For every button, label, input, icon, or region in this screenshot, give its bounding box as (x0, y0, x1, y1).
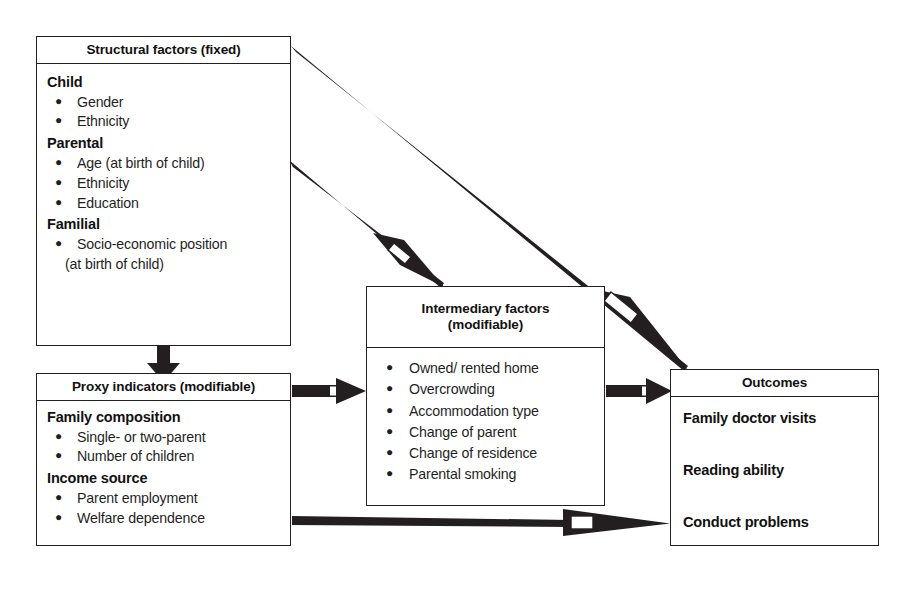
list-item: Family doctor visits (683, 410, 872, 426)
bullet-list-income-source: ●Parent employment ●Welfare dependence (47, 489, 286, 529)
bullet-icon: ● (386, 443, 393, 461)
group-heading-family-composition: Family composition (47, 408, 286, 427)
list-item: Conduct problems (683, 514, 872, 530)
bullet-icon: ● (55, 174, 62, 191)
bullet-icon: ● (55, 235, 62, 252)
list-item: ●Ethnicity (47, 174, 286, 194)
bullet-icon: ● (55, 509, 62, 526)
box-structural-factors: Structural factors (fixed) Child ●Gender… (36, 36, 291, 346)
box-intermediary-header: Intermediary factors (modifiable) (367, 287, 604, 348)
box-intermediary-body: ●Owned/ rented home ●Overcrowding ●Accom… (367, 348, 604, 492)
list-item: ●Gender (47, 93, 286, 113)
bullet-list-child: ●Gender ●Ethnicity (47, 93, 286, 133)
box-proxy-indicators: Proxy indicators (modifiable) Family com… (36, 373, 291, 546)
box-proxy-body: Family composition ●Single- or two-paren… (37, 401, 290, 535)
list-item: ●Number of children (47, 447, 286, 467)
box-outcomes: Outcomes Family doctor visits Reading ab… (670, 369, 879, 546)
list-item: ●Change of residence (374, 443, 600, 464)
arrow-structural-to-intermediary (289, 160, 444, 288)
box-intermediary-factors: Intermediary factors (modifiable) ●Owned… (366, 286, 605, 506)
bullet-icon: ● (386, 401, 393, 419)
list-item: ●Welfare dependence (47, 509, 286, 529)
box-outcomes-header: Outcomes (671, 370, 878, 397)
group-heading-child: Child (47, 73, 286, 92)
list-item: ●Single- or two-parent (47, 428, 286, 448)
bullet-icon: ● (55, 93, 62, 110)
list-item-continuation: (at birth of child) (65, 255, 286, 275)
list-item: ●Owned/ rented home (374, 358, 600, 379)
box-intermediary-header-line1: Intermediary factors (422, 301, 550, 317)
list-item: ●Age (at birth of child) (47, 154, 286, 174)
bullet-icon: ● (55, 154, 62, 171)
box-proxy-header: Proxy indicators (modifiable) (37, 374, 290, 401)
bullet-icon: ● (386, 379, 393, 397)
bullet-icon: ● (55, 112, 62, 129)
bullet-list-familial: ● Socio-economic position (at birth of c… (47, 235, 286, 275)
diagram-canvas: Structural factors (fixed) Child ●Gender… (0, 0, 913, 596)
bullet-list-parental: ●Age (at birth of child) ●Ethnicity ●Edu… (47, 154, 286, 214)
bullet-icon: ● (386, 422, 393, 440)
bullet-icon: ● (386, 464, 393, 482)
bullet-icon: ● (55, 447, 62, 464)
outcome-list: Family doctor visits Reading ability Con… (683, 410, 872, 530)
bullet-icon: ● (386, 358, 393, 376)
list-item: ●Ethnicity (47, 112, 286, 132)
bullet-icon: ● (55, 489, 62, 506)
arrow-intermediary-to-outcomes (606, 378, 672, 404)
list-item: ●Education (47, 194, 286, 214)
list-item: ● Socio-economic position (at birth of c… (47, 235, 286, 275)
bullet-list-family-composition: ●Single- or two-parent ●Number of childr… (47, 428, 286, 468)
list-item: ●Parental smoking (374, 464, 600, 485)
group-heading-familial: Familial (47, 215, 286, 234)
bullet-icon: ● (55, 428, 62, 445)
bullet-icon: ● (55, 194, 62, 211)
box-structural-body: Child ●Gender ●Ethnicity Parental ●Age (… (37, 64, 290, 281)
list-item: Reading ability (683, 462, 872, 478)
arrow-proxy-to-outcomes (292, 509, 670, 536)
list-item: ●Overcrowding (374, 379, 600, 400)
box-intermediary-header-line2: (modifiable) (448, 317, 523, 333)
list-item: ●Accommodation type (374, 401, 600, 422)
box-structural-header: Structural factors (fixed) (37, 37, 290, 64)
list-item: ●Parent employment (47, 489, 286, 509)
group-heading-income-source: Income source (47, 469, 286, 488)
list-item: ●Change of parent (374, 422, 600, 443)
bullet-list-intermediary: ●Owned/ rented home ●Overcrowding ●Accom… (374, 358, 600, 486)
group-heading-parental: Parental (47, 134, 286, 153)
box-outcomes-body: Family doctor visits Reading ability Con… (671, 397, 878, 534)
arrow-proxy-to-intermediary (292, 378, 366, 404)
